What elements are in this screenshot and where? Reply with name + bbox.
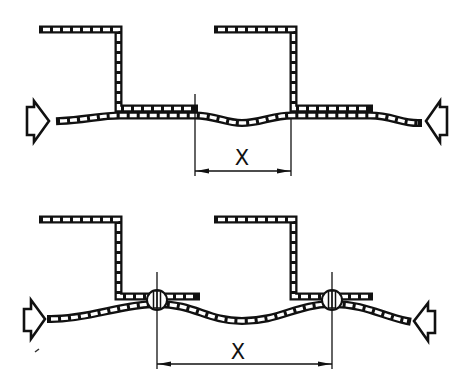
- bottom-view: X: [24, 220, 435, 370]
- bottom-left-z-profile: [43, 220, 196, 297]
- scan-speck: [35, 349, 39, 352]
- top-right-z-profile: [218, 30, 369, 109]
- dimension-arrowhead-icon: [318, 362, 331, 367]
- top-skin-sheet: [60, 116, 418, 124]
- bottom-dimension: X: [157, 340, 332, 367]
- load-arrow-left-icon: [414, 303, 435, 341]
- top-left-z-profile: [43, 30, 194, 109]
- dimension-arrowhead-icon: [196, 169, 209, 174]
- dimension-arrowhead-icon: [158, 362, 171, 367]
- dimension-label-x: X: [235, 146, 249, 170]
- bottom-right-z-profile: [218, 220, 369, 297]
- load-arrow-right-icon: [27, 101, 49, 142]
- top-dimension: X: [195, 94, 291, 176]
- bottom-skin-sheet: [51, 304, 407, 321]
- dimension-label-x: X: [231, 340, 245, 364]
- diagram-canvas: X: [0, 0, 472, 387]
- diagram-svg: X: [0, 0, 472, 387]
- top-view: X: [27, 30, 447, 177]
- dimension-arrowhead-icon: [277, 169, 290, 174]
- load-arrow-left-icon: [426, 101, 447, 142]
- load-arrow-right-icon: [24, 300, 45, 339]
